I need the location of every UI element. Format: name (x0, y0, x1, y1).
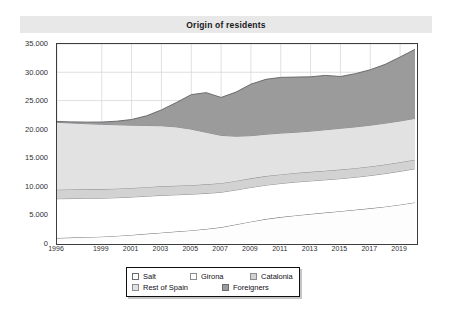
x-axis-tick-label: 2005 (182, 245, 198, 252)
y-axis-tick-label: 20.000 (25, 124, 48, 133)
legend-swatch-salt (132, 273, 139, 280)
legend-swatch-foreigners (222, 284, 229, 291)
plot-area (56, 43, 418, 245)
page-title: Origin of residents (186, 20, 265, 30)
x-axis-tick-label: 2003 (153, 245, 169, 252)
legend-row-1: Salt Girona Catalonia (132, 271, 293, 282)
y-axis-tick-label: 25.000 (25, 96, 48, 105)
legend-swatch-catalonia (250, 273, 257, 280)
x-axis-tick-label: 2007 (212, 245, 228, 252)
y-axis-tick-label: 15.000 (25, 153, 48, 162)
y-axis-tick-label: 35.000 (25, 39, 48, 48)
legend-item-foreigners[interactable]: Foreigners (222, 283, 270, 292)
area-series-foreigners (57, 49, 415, 136)
y-axis-tick-label: 30.000 (25, 67, 48, 76)
chart-screenshot: Origin of residents 05.00010.00015.00020… (0, 0, 456, 315)
legend-label-catalonia: Catalonia (261, 272, 293, 281)
x-axis-tick-label: 2017 (361, 245, 377, 252)
legend-item-catalonia[interactable]: Catalonia (250, 272, 293, 281)
x-axis-tick-label: 1996 (48, 245, 64, 252)
legend-swatch-girona (190, 273, 197, 280)
legend-row-2: Rest of Spain Foreigners (132, 282, 293, 293)
chart-title-bar: Origin of residents (20, 16, 432, 33)
x-axis-tick-label: 2013 (302, 245, 318, 252)
x-axis-tick-label: 2001 (123, 245, 139, 252)
x-axis-tick-label: 2011 (272, 245, 287, 252)
stacked-area-plot (57, 44, 415, 242)
legend-label-girona: Girona (201, 272, 224, 281)
legend-label-rest-of-spain: Rest of Spain (143, 283, 188, 292)
y-axis-tick-label: 10.000 (25, 181, 48, 190)
x-axis: 1996199920012003200520072009201120132015… (40, 245, 440, 259)
chart-legend: Salt Girona Catalonia Rest of Spain Fore… (126, 267, 300, 297)
x-axis-tick-label: 2015 (332, 245, 348, 252)
legend-item-salt[interactable]: Salt (132, 272, 178, 281)
legend-item-girona[interactable]: Girona (190, 272, 238, 281)
x-axis-tick-label: 2009 (242, 245, 258, 252)
legend-swatch-rest-of-spain (132, 284, 139, 291)
legend-item-rest-of-spain[interactable]: Rest of Spain (132, 283, 210, 292)
y-axis-tick-label: 5.000 (29, 210, 48, 219)
x-axis-tick-label: 1999 (93, 245, 109, 252)
x-axis-tick-label: 2019 (391, 245, 407, 252)
y-axis: 05.00010.00015.00020.00025.00030.00035.0… (0, 36, 52, 252)
legend-label-salt: Salt (143, 272, 156, 281)
legend-label-foreigners: Foreigners (233, 283, 269, 292)
